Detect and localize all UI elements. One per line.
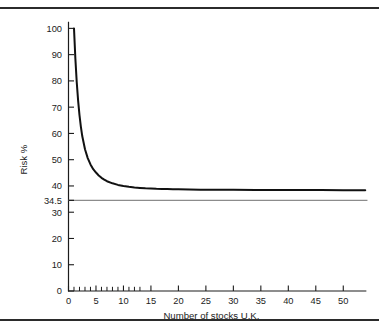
y-tick-labels-group: 010203034.5405060708090100 [44,24,62,297]
y-axis-title: Risk % [18,144,29,174]
x-tick-label: 45 [311,296,321,306]
series-line-portfolio-risk [74,28,365,190]
x-tick-label: 50 [338,296,348,306]
x-tick-label: 35 [256,296,266,306]
y-tick-label: 34.5 [44,196,62,206]
chart-plot-area: 010203034.5405060708090100 0510152025303… [0,0,379,336]
y-tick-label: 80 [52,76,62,86]
x-tick-label: 10 [118,296,128,306]
x-axis-title: Number of stocks U.K. [163,310,259,321]
y-tick-label: 100 [46,24,62,34]
x-tick-label: 25 [201,296,211,306]
y-tick-label: 50 [52,155,62,165]
y-tick-label: 40 [52,181,62,191]
x-tick-label: 15 [146,296,156,306]
axes-group [68,22,366,292]
y-tick-label: 0 [57,286,62,296]
y-tick-label: 90 [52,50,62,60]
risk-diversification-chart: 010203034.5405060708090100 0510152025303… [0,0,379,336]
figure-container: 010203034.5405060708090100 0510152025303… [0,0,379,336]
x-tick-label: 20 [173,296,183,306]
x-tick-labels-group: 05101520253035404550 [66,296,349,306]
y-tick-label: 10 [52,260,62,270]
x-tick-label: 30 [228,296,238,306]
y-tick-label: 30 [52,208,62,218]
y-tick-label: 70 [52,103,62,113]
data-series-group [74,28,365,190]
x-tick-label: 0 [66,296,71,306]
x-tick-label: 5 [93,296,98,306]
x-tick-label: 40 [283,296,293,306]
y-tick-label: 20 [52,234,62,244]
y-tick-label: 60 [52,129,62,139]
axis-titles-group: Number of stocks U.K.Risk % [18,144,260,321]
